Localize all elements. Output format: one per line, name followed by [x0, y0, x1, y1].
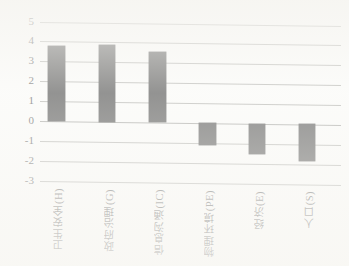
x-category-label: 经济(E) [252, 191, 267, 229]
bar [249, 124, 266, 155]
bar [149, 52, 166, 123]
bar [199, 123, 216, 145]
y-tick-label: 3 [12, 54, 34, 66]
gridline [40, 22, 341, 27]
x-category-label: 信息沟通(IC) [152, 189, 167, 255]
y-tick-label: -1 [12, 134, 34, 146]
gridline [40, 161, 341, 166]
x-category-label: 人口(S) [302, 191, 317, 228]
gridline [40, 121, 341, 126]
y-tick-label: 5 [12, 15, 34, 27]
chart-figure: 543210-1-2-3 卫生安全(H)政府治理(G)信息沟通(IC)物理环境(… [0, 0, 349, 266]
x-category-label: 政府治理(G) [102, 189, 117, 251]
y-tick-label: -3 [12, 174, 34, 186]
gridline [40, 81, 341, 86]
plot-area: 543210-1-2-3 卫生安全(H)政府治理(G)信息沟通(IC)物理环境(… [0, 0, 349, 266]
gridline [40, 141, 341, 146]
gridline [40, 101, 341, 106]
bar [48, 46, 65, 121]
y-tick-label: -2 [12, 154, 34, 166]
gridline [40, 41, 341, 46]
bar [299, 124, 316, 161]
bar [99, 45, 116, 122]
x-category-label: 卫生安全(H) [51, 188, 66, 250]
gridline [40, 61, 341, 66]
x-category-label: 物理环境(PE) [202, 190, 217, 257]
y-tick-label: 0 [12, 114, 34, 126]
y-tick-label: 2 [12, 74, 34, 86]
gridline [40, 181, 341, 186]
y-tick-label: 4 [12, 34, 34, 46]
y-tick-label: 1 [12, 94, 34, 106]
